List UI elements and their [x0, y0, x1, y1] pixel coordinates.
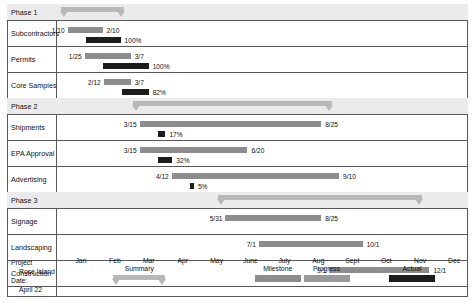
legend-swatch — [389, 275, 435, 282]
chart-footer: Project Rose Island Date: April 22 JanFe… — [7, 253, 468, 297]
legend-entry: Summary — [113, 265, 165, 280]
project-label: Project — [11, 259, 32, 266]
end-date-label: 8/25 — [325, 215, 338, 222]
row-label: Landscaping — [11, 243, 52, 252]
progress-label: 82% — [153, 89, 166, 96]
row-label: Phase 1 — [11, 8, 37, 17]
gantt-chart: Phase 1Subcontractors1/102/10100%Permits… — [0, 0, 475, 303]
axis-tick-label: Aug — [312, 257, 324, 264]
scheduled-bar[interactable] — [104, 79, 131, 85]
scheduled-bar[interactable] — [172, 173, 339, 179]
scheduled-bar[interactable] — [140, 147, 248, 153]
actual-progress-bar[interactable] — [103, 63, 149, 69]
axis-tick-label: June — [243, 257, 258, 264]
axis-tick-label: Oct — [381, 257, 392, 264]
start-date-label: 5/31 — [185, 215, 222, 222]
row-label: Advertising — [11, 175, 47, 184]
row-label: Permits — [11, 55, 35, 64]
legend-entry: Milestone — [255, 265, 301, 282]
legend-label: Actual — [389, 265, 435, 272]
end-date-label: 2/10 — [107, 27, 120, 34]
actual-progress-bar[interactable] — [86, 37, 121, 43]
project-name: Rose Island — [11, 267, 55, 276]
row-label: Signage — [11, 217, 37, 226]
start-date-label: 7/1 — [219, 241, 256, 248]
axis-tick-label: Mar — [143, 257, 155, 264]
row-label: Shipments — [11, 123, 45, 132]
legend-swatch — [113, 275, 165, 280]
end-date-label: 6/20 — [251, 147, 264, 154]
actual-progress-bar[interactable] — [122, 89, 149, 95]
scheduled-bar[interactable] — [259, 241, 363, 247]
progress-label: 32% — [176, 157, 189, 164]
actual-progress-bar[interactable] — [158, 131, 166, 137]
task-row[interactable]: Subcontractors — [7, 20, 468, 46]
date-value: April 22 — [11, 285, 55, 294]
axis-tick-label: Apr — [177, 257, 188, 264]
scheduled-bar[interactable] — [225, 215, 321, 221]
end-date-label: 8/25 — [325, 121, 338, 128]
axis-tick-label: Sept — [345, 257, 359, 264]
progress-label: 17% — [169, 131, 182, 138]
legend-label: Summary — [113, 265, 165, 272]
summary-bar[interactable] — [61, 7, 124, 12]
end-date-label: 3/7 — [135, 53, 144, 60]
summary-bar[interactable] — [133, 101, 332, 106]
chart-legend: SummaryMilestoneProgressActual — [64, 265, 468, 297]
scheduled-bar[interactable] — [140, 121, 322, 127]
progress-label: 5% — [198, 183, 208, 190]
actual-progress-bar[interactable] — [158, 157, 173, 163]
legend-label: Milestone — [255, 265, 301, 272]
row-label: Core Samples — [11, 81, 57, 90]
summary-bar[interactable] — [218, 195, 422, 200]
row-label: Phase 2 — [11, 102, 37, 111]
start-date-label: 2/12 — [64, 79, 101, 86]
progress-label: 100% — [153, 63, 170, 70]
actual-progress-bar[interactable] — [190, 183, 194, 189]
axis-tick-label: Feb — [109, 257, 121, 264]
progress-label: 100% — [125, 37, 142, 44]
axis-tick-label: May — [210, 257, 223, 264]
start-date-label: 3/15 — [100, 147, 137, 154]
task-row[interactable]: Signage — [7, 208, 468, 234]
end-date-label: 3/7 — [135, 79, 144, 86]
start-date-label: 1/10 — [28, 27, 65, 34]
task-row[interactable]: Advertising — [7, 166, 468, 192]
legend-entry: Actual — [389, 265, 435, 282]
legend-entry: Progress — [304, 265, 350, 282]
scheduled-bar[interactable] — [85, 53, 131, 59]
legend-label: Progress — [304, 265, 350, 272]
project-info-block: Project Rose Island Date: April 22 — [11, 258, 55, 294]
task-row[interactable]: Shipments — [7, 114, 468, 140]
axis-tick-label: July — [278, 257, 290, 264]
legend-swatch — [304, 275, 350, 282]
task-row[interactable]: EPA Approval — [7, 140, 468, 166]
end-date-label: 10/1 — [367, 241, 380, 248]
start-date-label: 3/15 — [100, 121, 137, 128]
date-label: Date: — [11, 277, 27, 284]
row-label: EPA Approval — [11, 149, 54, 158]
axis-tick-label: Dec — [448, 257, 460, 264]
start-date-label: 1/25 — [45, 53, 82, 60]
legend-swatch — [255, 275, 301, 282]
axis-tick-label: Nov — [414, 257, 426, 264]
end-date-label: 9/10 — [343, 173, 356, 180]
start-date-label: 4/12 — [132, 173, 169, 180]
axis-tick-label: Jan — [75, 257, 86, 264]
scheduled-bar[interactable] — [68, 27, 103, 33]
row-label: Phase 3 — [11, 196, 37, 205]
